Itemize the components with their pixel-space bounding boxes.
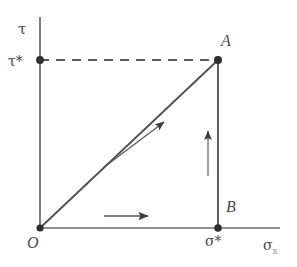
sigma-axis-label-base: σ (263, 237, 273, 253)
point-b-dot (214, 224, 222, 232)
sigma-axis-label-subscript: x (273, 246, 278, 256)
stress-path-figure: τ τ* A B O σ* σx (0, 0, 297, 267)
tau-axis-label: τ (18, 22, 26, 37)
diagonal-path-OA-line (40, 60, 218, 228)
figure-canvas (0, 0, 297, 267)
point-b-label: B (226, 199, 236, 215)
arrow-diagonal (103, 122, 164, 168)
origin-dot (36, 224, 43, 231)
tau-star-dot (36, 56, 44, 64)
point-a-label: A (221, 33, 231, 49)
tau-star-tick-label: τ* (8, 54, 23, 68)
origin-label: O (27, 235, 39, 251)
sigma-axis-label: σx (263, 238, 277, 255)
sigma-star-tick-label: σ* (205, 234, 222, 248)
point-a-dot (214, 56, 222, 64)
